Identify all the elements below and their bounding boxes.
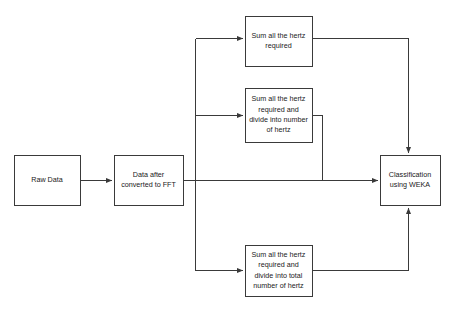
node-classification [381,156,441,206]
node-fft [115,156,184,206]
node-sum-divide-number [246,89,313,143]
flowchart-connectors [0,0,454,310]
node-raw-data [15,156,81,206]
flowchart-canvas: Raw Data Data after converted to FFT Sum… [0,0,454,310]
edge-sum-divide-number-to-classification [313,116,323,181]
node-sum-hertz [246,17,313,67]
edge-sum-divide-total-to-classification [313,208,409,271]
node-sum-divide-total [246,246,313,297]
edge-sum-hertz-to-classification [313,39,409,154]
